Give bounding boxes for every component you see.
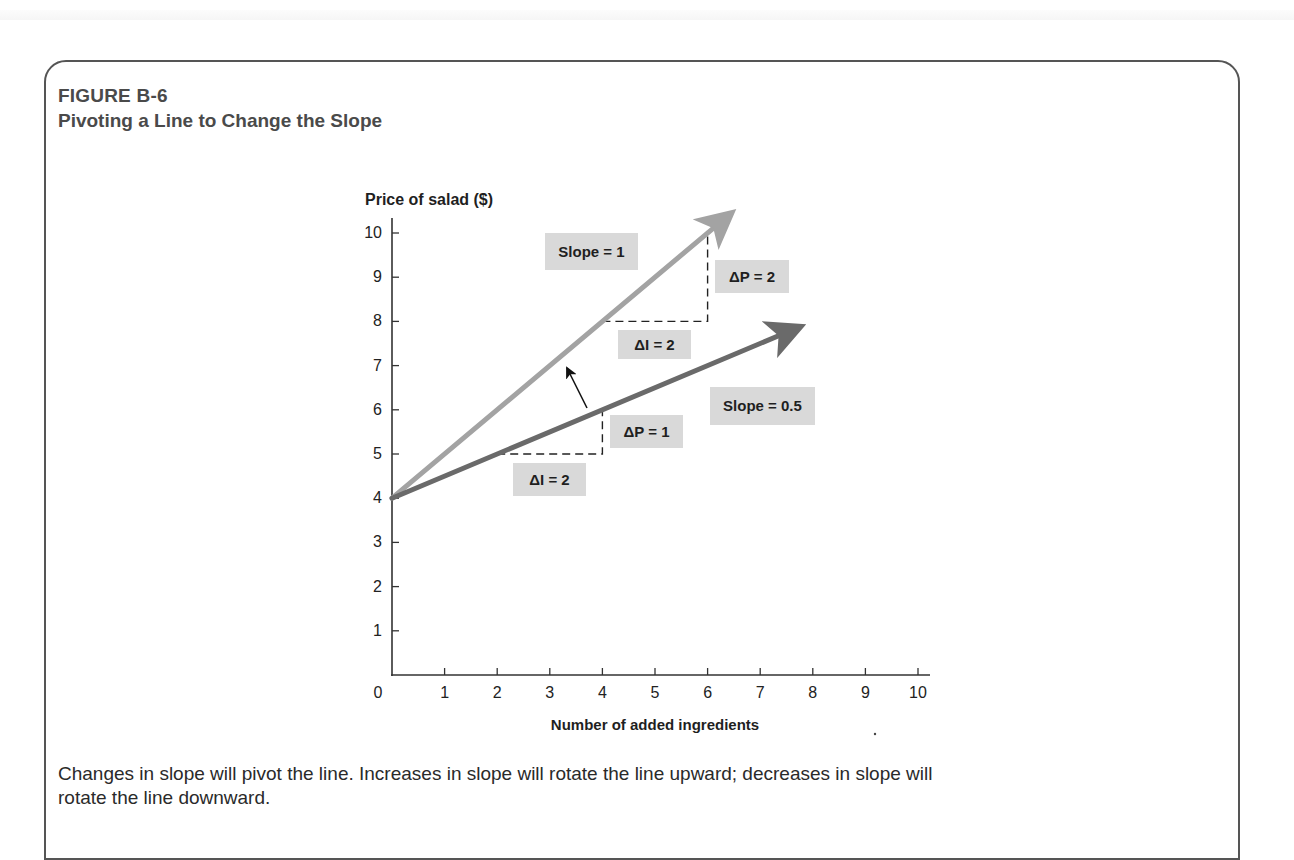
annotation-label: Slope = 1 <box>558 243 624 260</box>
y-tick-label: 7 <box>373 357 382 374</box>
x-tick-label: 2 <box>493 684 502 701</box>
annotation-label: ΔP = 2 <box>729 268 775 285</box>
axes: 12345678910012345678910 <box>364 218 930 701</box>
stray-dot <box>874 733 876 735</box>
pivot-arrow-icon <box>567 368 587 408</box>
figure-caption: Changes in slope will pivot the line. In… <box>58 762 938 810</box>
annotation-label: ΔP = 1 <box>624 423 670 440</box>
y-tick-label: 1 <box>373 622 382 639</box>
annotation-label: Slope = 0.5 <box>723 397 802 414</box>
x-tick-label: 4 <box>598 684 607 701</box>
x-tick-label: 10 <box>909 684 927 701</box>
annotation-label: ΔI = 2 <box>634 336 674 353</box>
annotation-label: ΔI = 2 <box>529 471 569 488</box>
x-tick-label: 5 <box>651 684 660 701</box>
y-tick-label: 3 <box>373 533 382 550</box>
x-axis-label: Number of added ingredients <box>551 716 759 733</box>
y-tick-label: 8 <box>373 312 382 329</box>
x-tick-label: 3 <box>545 684 554 701</box>
x-tick-label: 1 <box>440 684 449 701</box>
y-tick-label: 6 <box>373 401 382 418</box>
y-tick-label: 4 <box>373 489 382 506</box>
y-tick-label: 5 <box>373 445 382 462</box>
x-tick-label: 8 <box>808 684 817 701</box>
x-tick-label: 6 <box>703 684 712 701</box>
y-axis-label: Price of salad ($) <box>365 191 493 208</box>
y-tick-label: 10 <box>364 224 382 241</box>
x-tick-label: 0 <box>374 684 383 701</box>
y-tick-label: 2 <box>373 578 382 595</box>
y-tick-label: 9 <box>373 268 382 285</box>
x-tick-label: 9 <box>861 684 870 701</box>
x-tick-label: 7 <box>756 684 765 701</box>
